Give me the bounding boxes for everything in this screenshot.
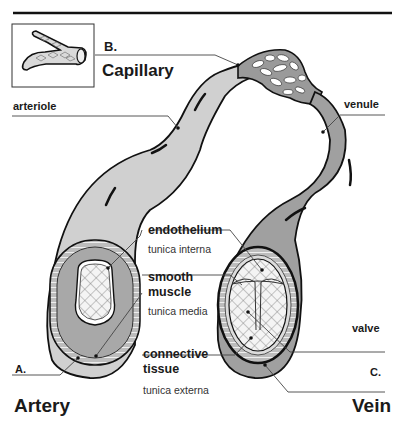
label-tunica-externa: tunica externa: [143, 385, 209, 396]
label-capillary: Capillary: [102, 62, 174, 79]
artery-cross-section: [50, 240, 140, 365]
label-tunica-interna: tunica interna: [148, 244, 211, 255]
label-a-letter: A.: [15, 364, 26, 375]
label-c-letter: C.: [370, 367, 381, 378]
label-valve: valve: [352, 323, 380, 334]
label-endothelium: endothelium: [148, 224, 222, 237]
label-venule: venule: [344, 99, 379, 110]
label-smooth: smooth: [148, 271, 193, 284]
label-tissue: tissue: [143, 363, 179, 376]
label-tunica-media: tunica media: [148, 306, 208, 317]
label-arteriole: arteriole: [13, 101, 56, 112]
inset-box: [12, 24, 94, 87]
label-artery: Artery: [14, 396, 70, 415]
label-b-letter: B.: [104, 40, 117, 53]
label-vein: Vein: [352, 396, 391, 415]
label-connective: connective: [143, 348, 208, 361]
label-muscle: muscle: [148, 286, 191, 299]
